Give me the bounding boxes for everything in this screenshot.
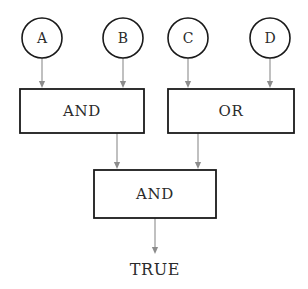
input-label: A [36, 30, 48, 46]
logic-gate-diagram: ANDORAND ABCD TRUE [0, 0, 308, 289]
gate-node-and[interactable]: AND [20, 89, 144, 133]
connector-arrow [114, 133, 120, 169]
input-node-b[interactable]: B [103, 18, 143, 58]
input-node-c[interactable]: C [168, 18, 208, 58]
diagram-canvas: ANDORAND ABCD TRUE [0, 0, 308, 289]
connector-arrow [267, 58, 273, 88]
arrowhead-icon [195, 162, 201, 169]
input-label: D [264, 30, 275, 46]
gate-node-or[interactable]: OR [168, 89, 294, 133]
arrowhead-icon [267, 81, 273, 88]
arrowhead-icon [39, 81, 45, 88]
input-node-a[interactable]: A [22, 18, 62, 58]
inputs-layer: ABCD [22, 18, 290, 58]
arrowhead-icon [185, 81, 191, 88]
input-label: C [183, 30, 194, 46]
gate-node-and[interactable]: AND [94, 170, 216, 218]
gate-label: AND [62, 102, 101, 120]
connectors-layer [39, 58, 273, 254]
connector-arrow [120, 58, 126, 88]
output-layer: TRUE [130, 260, 180, 279]
connector-arrow [39, 58, 45, 88]
connector-arrow [152, 218, 158, 254]
input-label: B [118, 30, 128, 46]
gate-label: AND [135, 185, 174, 203]
gates-layer: ANDORAND [20, 89, 294, 218]
arrowhead-icon [120, 81, 126, 88]
input-node-d[interactable]: D [250, 18, 290, 58]
gate-label: OR [219, 102, 244, 120]
output-label: TRUE [130, 260, 180, 279]
connector-arrow [195, 133, 201, 169]
connector-arrow [185, 58, 191, 88]
arrowhead-icon [114, 162, 120, 169]
arrowhead-icon [152, 247, 158, 254]
